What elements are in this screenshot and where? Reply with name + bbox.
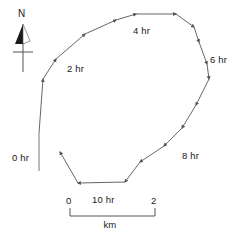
track-label-4hr: 4 hr bbox=[133, 25, 150, 36]
track-segment bbox=[164, 128, 182, 146]
track-segment bbox=[43, 59, 56, 79]
track-segment bbox=[176, 14, 194, 27]
track-label-8hr: 8 hr bbox=[182, 150, 199, 161]
track-segment bbox=[125, 162, 140, 182]
track-label-0hr: 0 hr bbox=[12, 152, 29, 163]
track-segment bbox=[78, 182, 125, 183]
north-label: N bbox=[18, 8, 25, 19]
track-segment bbox=[196, 79, 209, 105]
track-segment bbox=[182, 105, 196, 128]
track-label-10hr: 10 hr bbox=[92, 194, 115, 205]
track-segment bbox=[199, 42, 207, 64]
track-segment bbox=[60, 152, 78, 183]
track-segment bbox=[140, 146, 164, 162]
scale-unit-label: km bbox=[104, 219, 117, 230]
track-label-2hr: 2 hr bbox=[67, 63, 84, 74]
scale-min-label: 0 bbox=[66, 195, 71, 206]
track-segment bbox=[194, 27, 199, 42]
north-arrow-icon bbox=[13, 24, 33, 72]
track-segment bbox=[116, 14, 136, 20]
scale-max-label: 2 bbox=[151, 195, 156, 206]
track-segment bbox=[56, 34, 85, 59]
storm-track-figure: N 0 hr 2 hr 4 hr 6 hr 8 hr 10 hr 0 2 km bbox=[0, 0, 246, 242]
track-segment bbox=[39, 79, 43, 133]
track-segment bbox=[85, 20, 116, 34]
track-segment bbox=[207, 64, 209, 79]
track-drawing bbox=[0, 0, 246, 242]
scale-bar bbox=[70, 208, 155, 216]
track-label-6hr: 6 hr bbox=[210, 54, 227, 65]
